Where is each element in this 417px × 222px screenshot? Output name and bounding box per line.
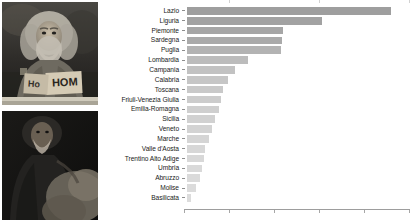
category-tick-mark — [182, 89, 185, 90]
bar-row: Trentino Alto Adige — [100, 154, 417, 164]
category-label: Sicilia — [100, 115, 182, 123]
category-label: Lombardia — [100, 56, 182, 64]
category-tick-mark — [182, 148, 185, 149]
bar — [187, 115, 215, 123]
chart-plot-area: LazioLiguriaPiemonteSardegnaPugliaLombar… — [100, 0, 417, 222]
category-label: Molise — [100, 184, 182, 192]
bar-row: Emilia-Romagna — [100, 104, 417, 114]
homeless-man-with-sign-photo: HOM Ho — [2, 2, 98, 105]
svg-text:Ho: Ho — [28, 78, 41, 89]
bar-row: Friuli-Venezia Giulia — [100, 95, 417, 105]
category-tick-mark — [182, 178, 185, 179]
category-tick-mark — [182, 50, 185, 51]
bar — [187, 86, 223, 94]
bar-track — [187, 193, 417, 203]
bar-track — [187, 124, 417, 134]
photo-column: HOM Ho — [0, 0, 100, 222]
bar — [187, 145, 205, 153]
category-tick-mark — [182, 138, 185, 139]
bar-row: Veneto — [100, 124, 417, 134]
category-label: Liguria — [100, 17, 182, 25]
bar-row: Umbria — [100, 164, 417, 174]
category-tick-mark — [182, 109, 185, 110]
x-axis-tick — [364, 210, 365, 213]
category-tick-mark — [182, 99, 185, 100]
bar-row: Sicilia — [100, 114, 417, 124]
cardboard-sign-left: Ho — [23, 73, 48, 95]
bar — [187, 46, 281, 54]
category-label: Emilia-Romagna — [100, 105, 182, 113]
bar-track — [187, 55, 417, 65]
category-label: Abruzzo — [100, 174, 182, 182]
x-axis-line — [184, 209, 410, 210]
bar-track — [187, 164, 417, 174]
bar — [187, 76, 228, 84]
category-label: Puglia — [100, 46, 182, 54]
clipped-top-tick — [319, 0, 320, 3]
category-label: Marche — [100, 135, 182, 143]
category-label: Calabria — [100, 76, 182, 84]
x-axis-tick — [319, 210, 320, 213]
bar — [187, 106, 219, 114]
x-axis-tick — [274, 210, 275, 213]
bar-row: Marche — [100, 134, 417, 144]
x-axis-tick — [229, 210, 230, 213]
bar — [187, 56, 248, 64]
seated-man-dark-photo — [2, 111, 98, 220]
bar-row: Lazio — [100, 6, 417, 16]
bar-rows: LazioLiguriaPiemonteSardegnaPugliaLombar… — [100, 6, 417, 203]
bar — [187, 66, 235, 74]
category-label: Friuli-Venezia Giulia — [100, 96, 182, 104]
category-tick-mark — [182, 168, 185, 169]
bar-track — [187, 173, 417, 183]
category-tick-mark — [182, 129, 185, 130]
x-axis-tick — [409, 210, 410, 213]
photo-2-graphic — [2, 111, 98, 220]
bar-row: Sardegna — [100, 36, 417, 46]
bar-track — [187, 95, 417, 105]
bar-track — [187, 16, 417, 26]
bar-track — [187, 75, 417, 85]
category-label: Valle d'Aosta — [100, 145, 182, 153]
category-label: Veneto — [100, 125, 182, 133]
bar — [187, 155, 204, 163]
bar — [187, 125, 212, 133]
category-label: Piemonte — [100, 27, 182, 35]
bar-row: Campania — [100, 65, 417, 75]
category-label: Basilicata — [100, 194, 182, 202]
bar-track — [187, 114, 417, 124]
clipped-top-tick — [229, 0, 230, 3]
bar-row: Piemonte — [100, 26, 417, 36]
category-label: Trentino Alto Adige — [100, 155, 182, 163]
bar-track — [187, 144, 417, 154]
bar-row: Basilicata — [100, 193, 417, 203]
category-label: Umbria — [100, 164, 182, 172]
category-tick-mark — [182, 69, 185, 70]
clipped-top-tick — [409, 0, 410, 3]
bar-track — [187, 134, 417, 144]
bar-row: Toscana — [100, 85, 417, 95]
bar — [187, 17, 322, 25]
bar-row: Puglia — [100, 45, 417, 55]
category-label: Campania — [100, 66, 182, 74]
bar-track — [187, 36, 417, 46]
bar-row: Liguria — [100, 16, 417, 26]
category-tick-mark — [182, 197, 185, 198]
screenshot-root: HOM Ho — [0, 0, 417, 222]
category-tick-mark — [182, 188, 185, 189]
bar-track — [187, 104, 417, 114]
bar-track — [187, 183, 417, 193]
cardboard-sign-right: HOM — [45, 71, 82, 95]
bar — [187, 7, 391, 15]
bar-row: Lombardia — [100, 55, 417, 65]
category-tick-mark — [182, 79, 185, 80]
category-tick-mark — [182, 20, 185, 21]
photo-1-graphic: HOM Ho — [2, 2, 98, 105]
bar-track — [187, 6, 417, 16]
category-tick-mark — [182, 60, 185, 61]
category-label: Sardegna — [100, 36, 182, 44]
bar — [187, 174, 200, 182]
bar-track — [187, 85, 417, 95]
category-label: Toscana — [100, 86, 182, 94]
category-tick-mark — [182, 30, 185, 31]
